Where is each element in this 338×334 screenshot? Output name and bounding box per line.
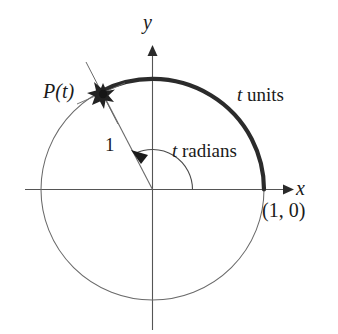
arc-length-unit-word: units bbox=[247, 84, 284, 105]
radius-length-label: 1 bbox=[105, 135, 115, 154]
angle-measure-label: t radians bbox=[172, 141, 237, 160]
start-point-label: (1, 0) bbox=[262, 200, 305, 220]
arc-length-variable: t bbox=[237, 84, 242, 105]
figure-background bbox=[0, 0, 338, 334]
x-axis-label: x bbox=[296, 178, 305, 198]
y-axis-label: y bbox=[143, 12, 152, 32]
terminal-point-label-text: P(t) bbox=[43, 80, 74, 102]
angle-measure-unit-word: radians bbox=[182, 140, 237, 161]
arc-length-label: t units bbox=[237, 85, 284, 104]
unit-circle-figure bbox=[0, 0, 338, 334]
terminal-point-label: P(t) bbox=[43, 81, 74, 101]
angle-measure-variable: t bbox=[172, 140, 177, 161]
